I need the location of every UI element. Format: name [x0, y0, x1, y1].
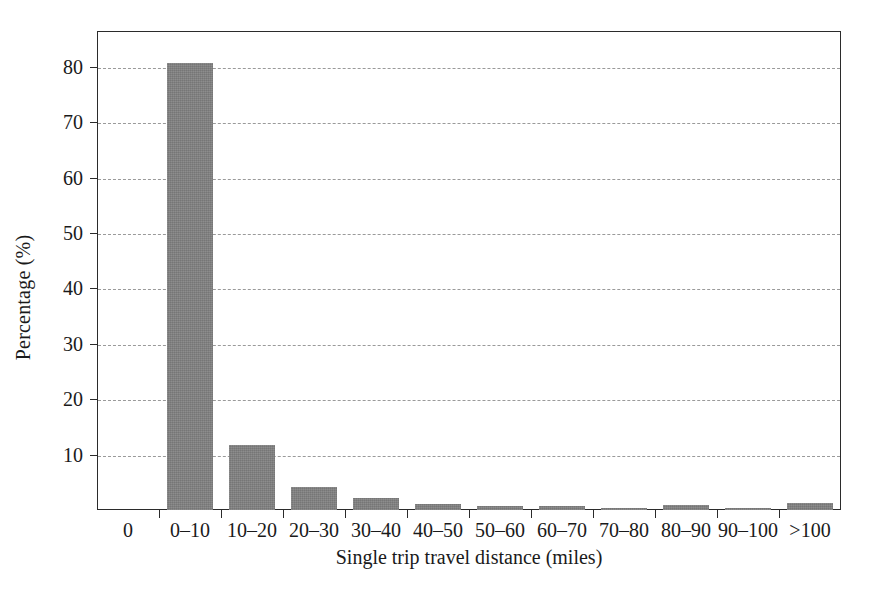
x-axis-title: Single trip travel distance (miles) — [97, 546, 841, 569]
x-tick-label: 20–30 — [289, 519, 339, 541]
x-tick-label: 30–40 — [351, 519, 401, 541]
y-tick-mark — [90, 67, 98, 68]
x-tick-label: 60–70 — [537, 519, 587, 541]
x-tick-mark — [469, 510, 470, 518]
gridline-20 — [98, 400, 840, 401]
y-tick-mark — [90, 178, 98, 179]
x-tick-label: 40–50 — [413, 519, 463, 541]
y-tick-label: 60 — [23, 168, 83, 188]
x-tick-mark — [159, 510, 160, 518]
y-tick-mark — [90, 455, 98, 456]
gridline-10 — [98, 456, 840, 457]
x-tick-label: 90–100 — [718, 519, 778, 541]
x-tick-mark — [717, 510, 718, 518]
gridline-60 — [98, 179, 840, 180]
y-tick-mark — [90, 288, 98, 289]
y-tick-label: 50 — [23, 223, 83, 243]
y-tick-mark — [90, 399, 98, 400]
bar-chart-figure: Percentage (%) 1020304050607080 00–1010–… — [0, 0, 877, 595]
x-tick-label: 70–80 — [599, 519, 649, 541]
x-tick-mark — [531, 510, 532, 518]
x-tick-mark — [655, 510, 656, 518]
y-tick-label: 30 — [23, 334, 83, 354]
x-tick-label: 80–90 — [661, 519, 711, 541]
gridline-30 — [98, 345, 840, 346]
x-tick-mark — [221, 510, 222, 518]
x-tick-label: 10–20 — [227, 519, 277, 541]
gridline-50 — [98, 234, 840, 235]
x-tick-label: 0–10 — [170, 519, 210, 541]
y-tick-mark — [90, 344, 98, 345]
x-tick-mark — [283, 510, 284, 518]
x-tick-label: >100 — [789, 519, 830, 541]
y-tick-label: 80 — [23, 57, 83, 77]
y-tick-mark — [90, 122, 98, 123]
y-tick-label: 70 — [23, 112, 83, 132]
y-tick-label: 40 — [23, 278, 83, 298]
x-tick-mark — [779, 510, 780, 518]
x-tick-mark — [345, 510, 346, 518]
y-tick-label: 10 — [23, 445, 83, 465]
x-tick-mark — [407, 510, 408, 518]
x-tick-label: 0 — [123, 519, 133, 541]
gridline-40 — [98, 289, 840, 290]
x-tick-mark — [593, 510, 594, 518]
y-tick-label: 20 — [23, 389, 83, 409]
gridline-70 — [98, 123, 840, 124]
plot-area — [97, 31, 841, 510]
gridline-80 — [98, 68, 840, 69]
y-tick-mark — [90, 233, 98, 234]
x-tick-label: 50–60 — [475, 519, 525, 541]
